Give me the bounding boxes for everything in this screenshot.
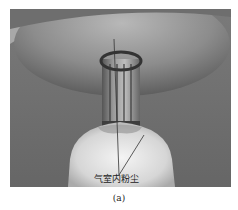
figure-caption: (a) (0, 193, 238, 203)
chamber-photo-graphic (10, 9, 231, 187)
dust-annotation-label: 气室内粉尘 (94, 174, 139, 185)
chamber-photo (10, 9, 231, 187)
